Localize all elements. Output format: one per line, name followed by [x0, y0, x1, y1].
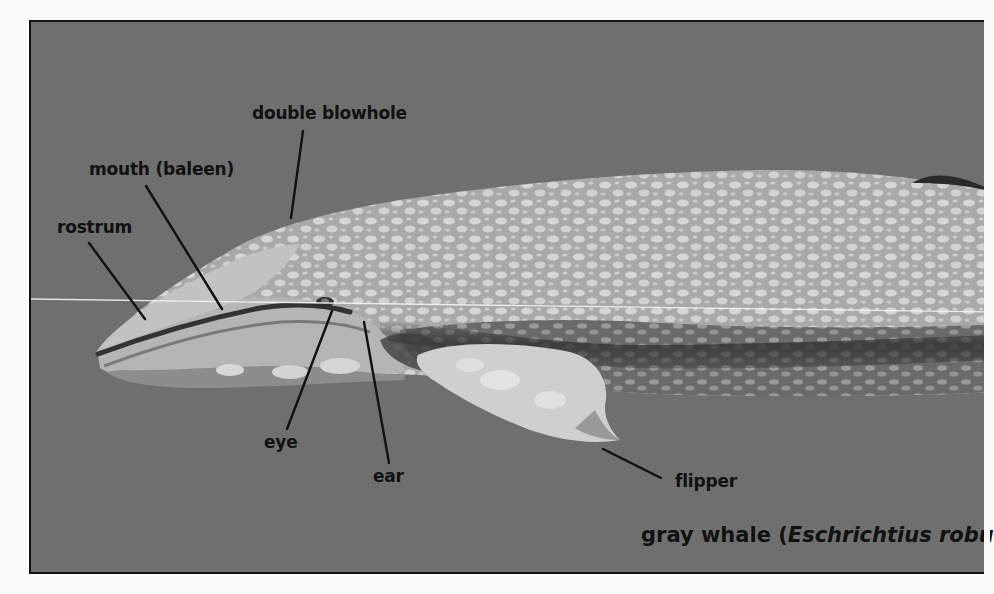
species-caption: gray whale (Eschrichtius robu — [641, 523, 994, 547]
label-double-blowhole: double blowhole — [252, 103, 407, 123]
leader-double-blowhole — [291, 131, 303, 218]
label-ear: ear — [373, 466, 404, 486]
leader-rostrum — [89, 243, 145, 319]
caption-scientific-name: Eschrichtius robu — [788, 523, 994, 547]
label-mouth: mouth (baleen) — [89, 159, 234, 179]
caption-common-name: gray whale ( — [641, 523, 788, 547]
label-eye: eye — [264, 432, 298, 452]
leader-flipper — [603, 449, 661, 478]
page-edge — [984, 0, 990, 594]
label-rostrum: rostrum — [57, 217, 132, 237]
label-flipper: flipper — [675, 471, 737, 491]
